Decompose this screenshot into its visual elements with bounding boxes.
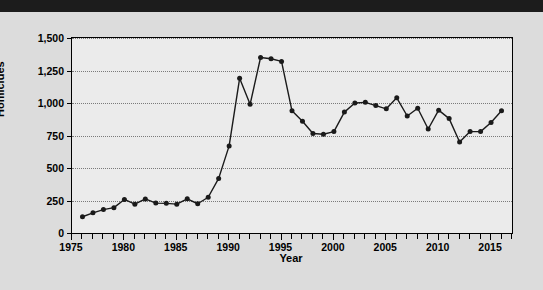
data-point (384, 106, 389, 111)
x-tick-mark (113, 234, 114, 239)
x-tick-mark (228, 234, 229, 240)
x-tick-mark (281, 234, 282, 240)
x-tick-mark (176, 234, 177, 240)
x-tick-mark (448, 234, 449, 239)
data-point (90, 210, 95, 215)
data-point (101, 207, 106, 212)
data-point (227, 143, 232, 148)
data-point (415, 106, 420, 111)
y-tick-label: 250 (2, 195, 64, 207)
x-tick-mark (501, 234, 502, 239)
data-point (164, 201, 169, 206)
data-point (206, 195, 211, 200)
x-tick-mark (197, 234, 198, 239)
x-tick-mark (406, 234, 407, 239)
data-point (468, 129, 473, 134)
x-tick-mark (469, 234, 470, 239)
x-tick-mark (218, 234, 219, 239)
data-point (216, 176, 221, 181)
x-tick-mark (155, 234, 156, 239)
figure-root: Homicides 02505007501,0001,2501,500 1975… (0, 0, 543, 290)
x-tick-mark (260, 234, 261, 239)
x-tick-mark (239, 234, 240, 239)
x-tick-mark (396, 234, 397, 239)
x-tick-mark (385, 234, 386, 240)
x-tick-mark (102, 234, 103, 239)
x-tick-mark (511, 234, 512, 239)
data-point (174, 202, 179, 207)
data-point (258, 55, 263, 60)
data-point (143, 196, 148, 201)
y-tick-label: 1,500 (2, 32, 64, 44)
data-point (457, 140, 462, 145)
x-tick-mark (301, 234, 302, 239)
x-tick-mark (165, 234, 166, 239)
x-tick-mark (312, 234, 313, 239)
chart-panel: Homicides 02505007501,0001,2501,500 1975… (0, 12, 543, 290)
data-point (478, 129, 483, 134)
data-point (132, 202, 137, 207)
x-axis-title: Year (71, 252, 511, 264)
x-tick-mark (480, 234, 481, 239)
x-tick-mark (123, 234, 124, 240)
data-point (248, 102, 253, 107)
data-point (290, 108, 295, 113)
x-tick-mark (186, 234, 187, 239)
y-tick-label: 500 (2, 162, 64, 174)
data-point (489, 120, 494, 125)
data-point (122, 197, 127, 202)
y-tick-label: 1,250 (2, 65, 64, 77)
x-tick-mark (364, 234, 365, 239)
y-tick-label: 1,000 (2, 97, 64, 109)
x-tick-mark (427, 234, 428, 239)
y-tick-label: 750 (2, 130, 64, 142)
data-point (279, 59, 284, 64)
x-tick-mark (249, 234, 250, 239)
data-point (405, 114, 410, 119)
x-tick-mark (92, 234, 93, 239)
data-point (426, 127, 431, 132)
x-tick-mark (322, 234, 323, 239)
series-line (82, 58, 501, 217)
x-tick-mark (207, 234, 208, 239)
x-tick-mark (270, 234, 271, 239)
x-tick-mark (291, 234, 292, 239)
data-point (321, 132, 326, 137)
x-tick-mark (343, 234, 344, 239)
data-point (153, 201, 158, 206)
data-point (373, 103, 378, 108)
x-tick-mark (144, 234, 145, 239)
data-point (352, 101, 357, 106)
data-point (80, 214, 85, 219)
data-point (185, 196, 190, 201)
header-strip (0, 0, 543, 12)
data-point (394, 95, 399, 100)
data-point (436, 108, 441, 113)
data-point (269, 56, 274, 61)
x-tick-mark (354, 234, 355, 239)
plot-inner: 02505007501,0001,2501,500 (72, 38, 512, 233)
data-point (237, 76, 242, 81)
x-tick-mark (438, 234, 439, 240)
data-point (300, 119, 305, 124)
x-tick-mark (417, 234, 418, 239)
plot-area: 02505007501,0001,2501,500 (71, 37, 513, 234)
x-tick-mark (459, 234, 460, 239)
data-point (195, 201, 200, 206)
data-series (72, 38, 512, 233)
data-point (331, 129, 336, 134)
y-tick-label: 0 (2, 227, 64, 239)
x-tick-mark (333, 234, 334, 240)
data-point (499, 108, 504, 113)
data-point (342, 110, 347, 115)
data-point (447, 116, 452, 121)
data-point (363, 100, 368, 105)
x-tick-mark (375, 234, 376, 239)
data-point (111, 205, 116, 210)
x-tick-mark (71, 234, 72, 240)
x-tick-mark (490, 234, 491, 240)
x-tick-mark (134, 234, 135, 239)
x-tick-mark (81, 234, 82, 239)
data-point (310, 131, 315, 136)
